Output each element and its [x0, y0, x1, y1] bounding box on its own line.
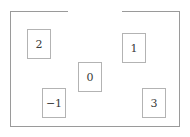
frame-left-segment [10, 11, 11, 127]
node-label: 0 [87, 72, 94, 83]
frame-right-segment [179, 11, 180, 127]
node-box[interactable]: 3 [142, 88, 166, 118]
frame-top-left-segment [10, 11, 68, 12]
node-label: −1 [46, 98, 62, 109]
diagram-canvas: 2 1 0 −1 3 [0, 0, 190, 137]
node-label: 1 [131, 43, 138, 54]
node-box[interactable]: 1 [122, 33, 146, 63]
frame-top-right-segment [122, 11, 180, 12]
node-box[interactable]: 0 [78, 62, 102, 92]
node-label: 3 [151, 98, 158, 109]
node-box[interactable]: −1 [42, 88, 66, 118]
node-box[interactable]: 2 [27, 29, 51, 59]
frame-bottom-segment [10, 126, 180, 127]
node-label: 2 [36, 39, 43, 50]
